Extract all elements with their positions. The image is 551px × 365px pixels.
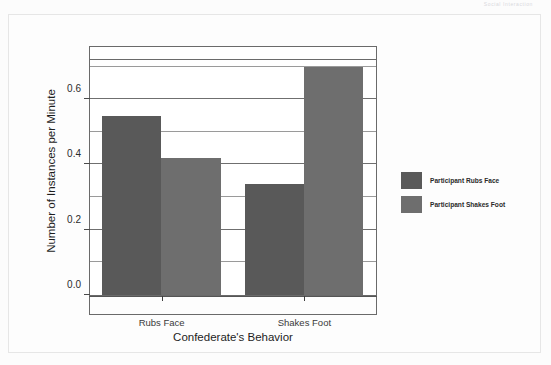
data-region: 0.00.20.40.6 <box>90 60 376 295</box>
x-axis-tick <box>162 296 163 301</box>
plot-inner-region: 0.00.20.40.6 <box>90 59 376 295</box>
legend-item-label: Participant Shakes Foot <box>430 201 505 208</box>
y-axis-tick-label: 0.0 <box>67 279 81 290</box>
y-axis-tick-label: 0.6 <box>67 83 81 94</box>
bar <box>245 184 304 295</box>
x-axis-tick <box>304 296 305 301</box>
x-axis-label: Confederate's Behavior <box>89 331 377 343</box>
scanned-header-text: Social Interaction <box>484 1 533 7</box>
bar <box>304 67 363 295</box>
x-axis-box <box>89 296 377 315</box>
legend-item-label: Participant Rubs Face <box>430 177 499 184</box>
y-axis-label: Number of Instances per Minute <box>45 66 57 276</box>
bar <box>102 116 161 296</box>
plot-area: 0.00.20.40.6 <box>89 46 377 296</box>
x-axis-tick-label: Shakes Foot <box>278 317 331 328</box>
y-axis-tick <box>84 229 90 230</box>
legend-item: Participant Rubs Face <box>401 172 505 189</box>
y-axis-tick <box>84 163 90 164</box>
screenshot-page: Social Interaction Number of Instances p… <box>0 0 551 365</box>
x-axis-line <box>89 296 377 297</box>
x-axis-tick-label: Rubs Face <box>139 317 185 328</box>
legend-item: Participant Shakes Foot <box>401 196 505 213</box>
document-page-card: Number of Instances per Minute 0.00.20.4… <box>8 14 541 353</box>
y-axis-tick <box>84 294 90 295</box>
legend-color-swatch <box>401 172 422 189</box>
y-axis-tick-label: 0.2 <box>67 213 81 224</box>
bar-chart-figure: Number of Instances per Minute 0.00.20.4… <box>9 15 542 354</box>
legend-color-swatch <box>401 196 422 213</box>
bar <box>161 158 220 295</box>
y-axis-tick-label: 0.4 <box>67 148 81 159</box>
y-axis-tick <box>84 98 90 99</box>
chart-legend: Participant Rubs FaceParticipant Shakes … <box>401 172 505 220</box>
